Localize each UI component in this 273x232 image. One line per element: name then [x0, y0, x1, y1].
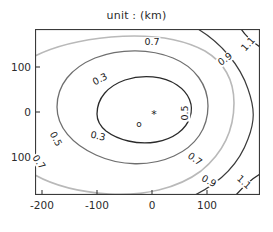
xtick-label-0: 0: [149, 199, 156, 211]
xtick-label-neg200: -200: [30, 199, 54, 211]
ytick-label-0: 0: [3, 106, 31, 118]
contour-label-0.7-top: 0.7: [143, 37, 160, 47]
ytick-label-100: 100: [3, 61, 31, 73]
contour-plot-figure: unit : (km) 0: [0, 0, 273, 232]
ytick-label-neg100: 100: [3, 151, 31, 163]
star-marker: *: [151, 109, 157, 120]
contour-line-0.7: [35, 36, 234, 194]
xtick-label-neg100: -100: [85, 199, 109, 211]
contour-line-0.3: [97, 77, 191, 143]
page-title: unit : (km): [0, 9, 273, 22]
plot-area: 0.3 0.3 0.5 0.5 0.7 0.7 0.7 0.9 0.9 1.1 …: [35, 29, 260, 195]
contour-label-0.5-right: 0.5: [180, 104, 190, 121]
circle-marker: o: [136, 120, 142, 129]
xtick-label-100: 100: [197, 199, 217, 211]
